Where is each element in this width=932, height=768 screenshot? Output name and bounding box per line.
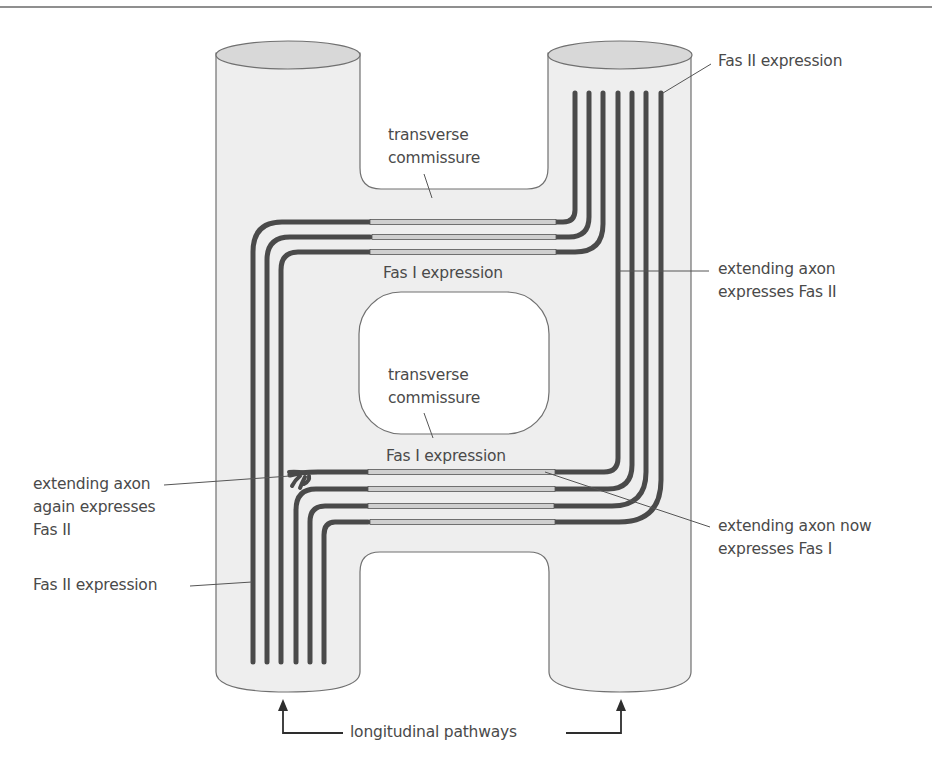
label-transverse-commissure-lower-line2: commissure (388, 389, 480, 408)
label-fas2-expression-left: Fas II expression (33, 576, 157, 595)
label-extending-axon-now-line1: extending axon now (718, 517, 871, 536)
label-extending-axon-expresses-fas2-line2: expresses Fas II (718, 283, 836, 302)
middle-hole (359, 292, 549, 434)
left-column-top-cap (216, 41, 360, 69)
label-fas2-expression-top-right: Fas II expression (718, 52, 842, 71)
label-transverse-commissure-upper-line2: commissure (388, 149, 480, 168)
label-extending-axon-again-line1: extending axon (33, 475, 150, 494)
label-fas1-expression-upper: Fas I expression (383, 264, 503, 283)
label-extending-axon-again-line2: again expresses (33, 498, 156, 517)
upper-commissure-fas1-segments (370, 220, 556, 255)
right-column-top-cap (548, 41, 692, 69)
right-arrowhead-icon (616, 699, 626, 711)
left-arrowhead-icon (278, 699, 288, 711)
label-extending-axon-now-line2: expresses Fas I (718, 540, 832, 559)
label-extending-axon-again-line3: Fas II (33, 521, 71, 540)
label-longitudinal-pathways: longitudinal pathways (350, 723, 517, 742)
label-fas1-expression-lower: Fas I expression (386, 447, 506, 466)
label-extending-axon-expresses-fas2-line1: extending axon (718, 260, 835, 279)
label-transverse-commissure-upper-line1: transverse (388, 126, 469, 145)
label-transverse-commissure-lower-line1: transverse (388, 366, 469, 385)
